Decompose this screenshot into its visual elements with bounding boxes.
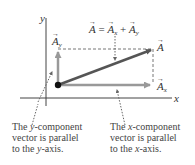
vector-components-diagram: y x Ay A Ax A = Ax + Ay The y-component … [0,0,195,165]
origin-dot [55,82,61,88]
x-component-caption: The x-component vector is parallel to th… [110,121,180,154]
vector-sum-equation: A = Ax + Ay [89,24,139,39]
x-axis-label: x [174,93,179,104]
a-vector [58,50,151,85]
y-axis-label: y [40,13,45,24]
ax-label: Ax [157,81,167,96]
a-label: A [157,42,164,53]
y-component-caption: The y-component vector is parallel to th… [12,121,82,154]
ay-label: Ay [52,36,62,51]
